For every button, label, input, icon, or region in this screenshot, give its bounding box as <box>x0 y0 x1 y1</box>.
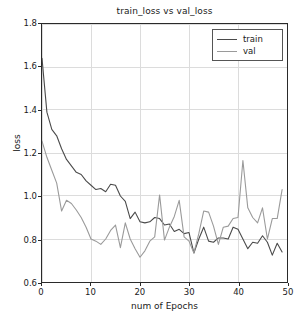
x-tick-mark <box>90 283 91 286</box>
y-axis-tick-labels: 0.60.81.01.21.41.61.8 <box>0 0 37 320</box>
x-tick-mark <box>41 283 42 286</box>
plot-canvas <box>42 24 287 282</box>
legend-label-val: val <box>243 46 256 56</box>
y-tick-label: 1.8 <box>3 18 37 28</box>
y-tick-mark <box>38 110 41 111</box>
x-tick-label: 20 <box>134 287 145 297</box>
y-tick-label: 1.0 <box>3 191 37 201</box>
x-tick-label: 10 <box>85 287 96 297</box>
x-axis-label: num of Epochs <box>41 301 288 311</box>
data-series <box>42 58 282 257</box>
x-tick-mark <box>288 283 289 286</box>
y-tick-mark <box>38 196 41 197</box>
legend-label-train: train <box>243 34 263 44</box>
chart-legend: train val <box>212 29 283 61</box>
y-tick-mark <box>38 240 41 241</box>
gridlines <box>42 24 287 282</box>
y-tick-label: 1.6 <box>3 61 37 71</box>
y-tick-label: 1.2 <box>3 148 37 158</box>
x-tick-label: 40 <box>233 287 244 297</box>
y-tick-label: 1.4 <box>3 105 37 115</box>
chart-figure: train_loss vs val_loss loss 0.60.81.01.2… <box>0 0 304 320</box>
chart-title: train_loss vs val_loss <box>41 6 288 16</box>
y-tick-mark <box>38 23 41 24</box>
x-tick-label: 30 <box>184 287 195 297</box>
plot-area <box>41 23 288 283</box>
y-tick-label: 0.6 <box>3 278 37 288</box>
x-tick-mark <box>140 283 141 286</box>
x-tick-label: 50 <box>283 287 294 297</box>
series-line-train <box>42 58 282 255</box>
x-tick-mark <box>189 283 190 286</box>
legend-item-val: val <box>217 45 278 57</box>
x-tick-mark <box>239 283 240 286</box>
legend-item-train: train <box>217 33 278 45</box>
y-tick-mark <box>38 66 41 67</box>
legend-swatch-train <box>217 39 237 40</box>
legend-swatch-val <box>217 51 237 52</box>
series-line-val <box>42 141 282 257</box>
x-tick-label: 0 <box>38 287 43 297</box>
y-tick-label: 0.8 <box>3 235 37 245</box>
y-tick-mark <box>38 153 41 154</box>
